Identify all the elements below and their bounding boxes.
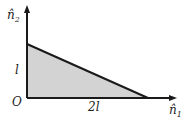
- origin-label: O: [12, 95, 22, 109]
- diagram-canvas: n̂2 n̂1 O l 2l: [0, 0, 190, 120]
- y-tick-label: l: [15, 63, 19, 77]
- x-tick-label: 2l: [87, 100, 100, 114]
- y-axis-arrow-icon: [24, 5, 30, 13]
- y-axis-label: n̂2: [7, 8, 20, 24]
- x-axis-arrow-icon: [169, 95, 177, 101]
- triangle-region-diagram: n̂2 n̂1 O l 2l: [0, 0, 190, 120]
- x-axis-label: n̂1: [169, 103, 182, 119]
